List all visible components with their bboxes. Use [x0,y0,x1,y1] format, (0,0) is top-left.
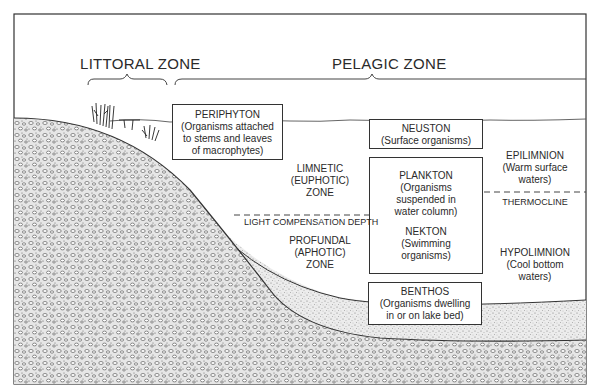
limnetic-line-2: (EUPHOTIC) [290,175,350,187]
limnetic-line-1: LIMNETIC [290,163,350,175]
neuston-title: NEUSTON [370,123,482,135]
plankton-desc-1: (Organisms [370,182,482,194]
littoral-zone-label: LITTORAL ZONE [80,55,201,72]
pelagic-zone-label: PELAGIC ZONE [332,55,446,72]
epilimnion-line-1: EPILIMNION [494,150,576,162]
thermocline-label: THERMOCLINE [500,196,570,208]
hypolimnion-label: HYPOLIMNION (Cool bottom waters) [494,247,576,283]
plankton-title: PLANKTON [370,170,482,182]
nekton-title: NEKTON [370,226,482,238]
periphyton-desc-2: to stems and leaves [173,133,282,145]
benthos-desc-2: in or on lake bed) [369,310,481,322]
limnetic-zone-label: LIMNETIC (EUPHOTIC) ZONE [290,163,350,199]
plankton-desc-2: suspended in [370,194,482,206]
periphyton-box: PERIPHYTON (Organisms attached to stems … [172,104,283,160]
neuston-box: NEUSTON (Surface organisms) [369,119,483,149]
epilimnion-line-2: (Warm surface [494,162,576,174]
hypolimnion-line-1: HYPOLIMNION [494,247,576,259]
nekton-desc-2: organisms) [370,250,482,262]
benthos-title: BENTHOS [369,286,481,298]
periphyton-desc-3: of macrophytes) [173,145,282,157]
hypolimnion-line-2: (Cool bottom [494,259,576,271]
epilimnion-label: EPILIMNION (Warm surface waters) [494,150,576,186]
neuston-desc: (Surface organisms) [370,135,482,147]
limnetic-line-3: ZONE [290,187,350,199]
periphyton-desc-1: (Organisms attached [173,121,282,133]
profundal-line-3: ZONE [285,259,355,271]
profundal-line-1: PROFUNDAL [285,235,355,247]
profundal-line-2: (APHOTIC) [285,247,355,259]
profundal-zone-label: PROFUNDAL (APHOTIC) ZONE [285,235,355,271]
nekton-desc-1: (Swimming [370,238,482,250]
hypolimnion-line-3: waters) [494,271,576,283]
epilimnion-line-3: waters) [494,174,576,186]
periphyton-title: PERIPHYTON [173,109,282,121]
plankton-nekton-box: PLANKTON (Organisms suspended in water c… [369,157,483,274]
benthos-box: BENTHOS (Organisms dwelling in or on lak… [368,282,482,325]
plankton-desc-3: water column) [370,206,482,218]
benthos-desc-1: (Organisms dwelling [369,298,481,310]
light-compensation-label: LIGHT COMPENSATION DEPTH [244,216,378,228]
